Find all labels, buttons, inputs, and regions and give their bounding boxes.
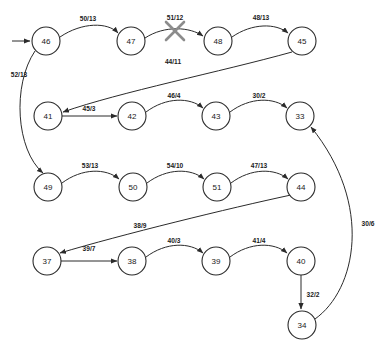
- node-label-39: 39: [212, 257, 221, 266]
- node-44[interactable]: 44: [287, 173, 315, 201]
- node-label-38: 38: [128, 257, 137, 266]
- edge-label-43-33: 30/2: [253, 92, 266, 99]
- edge-49-to-50: [62, 171, 119, 183]
- edge-label-49-50: 53/13: [82, 162, 99, 169]
- node-47[interactable]: 47: [117, 27, 145, 55]
- node-label-45: 45: [298, 37, 307, 46]
- node-label-47: 47: [127, 37, 136, 46]
- edge-50-to-51: [147, 171, 204, 183]
- node-label-34: 34: [298, 321, 307, 330]
- node-42[interactable]: 42: [118, 102, 146, 130]
- node-37[interactable]: 37: [33, 247, 61, 275]
- node-label-42: 42: [128, 112, 137, 121]
- edge-label-46-49: 52/13: [11, 71, 28, 78]
- edge-label-47-48: 51/12: [167, 14, 184, 21]
- node-label-46: 46: [42, 37, 51, 46]
- edge-38-to-39: [146, 245, 203, 257]
- edge-51-to-44: [231, 171, 288, 183]
- node-label-49: 49: [44, 183, 53, 192]
- node-40[interactable]: 40: [287, 247, 315, 275]
- edge-48-to-45: [232, 26, 288, 37]
- edge-label-44-37: 38/9: [134, 222, 147, 229]
- node-label-44: 44: [297, 183, 306, 192]
- node-label-41: 41: [44, 112, 53, 121]
- node-label-43: 43: [212, 112, 221, 121]
- node-33[interactable]: 33: [286, 102, 314, 130]
- node-label-51: 51: [213, 183, 222, 192]
- node-label-33: 33: [296, 112, 305, 121]
- node-38[interactable]: 38: [118, 247, 146, 275]
- node-51[interactable]: 51: [203, 173, 231, 201]
- node-label-37: 37: [43, 257, 52, 266]
- edge-label-38-39: 40/3: [168, 237, 181, 244]
- edge-label-45-41: 44/11: [165, 58, 181, 65]
- edge-46-to-47: [60, 25, 118, 37]
- node-41[interactable]: 41: [34, 102, 62, 130]
- edge-label-41-42: 45/3: [83, 105, 96, 112]
- node-39[interactable]: 39: [202, 247, 230, 275]
- node-46[interactable]: 46: [32, 27, 60, 55]
- node-45[interactable]: 45: [288, 27, 316, 55]
- edge-labels-layer: 50/1351/1248/1344/1152/1345/346/430/253/…: [11, 14, 375, 298]
- edge-42-to-43: [146, 100, 203, 112]
- edge-label-51-44: 47/13: [251, 162, 268, 169]
- edge-label-50-51: 54/10: [167, 162, 184, 169]
- nodes-layer: 4647484541424333495051443738394034: [32, 27, 316, 339]
- node-49[interactable]: 49: [34, 173, 62, 201]
- node-48[interactable]: 48: [204, 27, 232, 55]
- edge-label-37-38: 39/7: [83, 245, 96, 252]
- crossed-edge-marks-layer: [166, 22, 184, 40]
- node-label-40: 40: [297, 257, 306, 266]
- node-label-50: 50: [129, 183, 138, 192]
- node-50[interactable]: 50: [119, 173, 147, 201]
- edge-label-42-43: 46/4: [168, 92, 181, 99]
- node-34[interactable]: 34: [288, 311, 316, 339]
- edge-43-to-33: [230, 100, 287, 112]
- edge-label-40-34: 32/2: [307, 291, 320, 298]
- edge-label-48-45: 48/13: [253, 14, 270, 21]
- edge-label-34-33: 30/6: [362, 220, 375, 227]
- graph-diagram: 4647484541424333495051443738394034 50/13…: [0, 0, 390, 355]
- node-43[interactable]: 43: [202, 102, 230, 130]
- node-label-48: 48: [214, 37, 223, 46]
- edge-39-to-40: [230, 245, 287, 257]
- edge-label-46-47: 50/13: [80, 15, 97, 22]
- edge-label-39-40: 41/4: [253, 237, 266, 244]
- crossed-out-mark-47-48: [166, 22, 184, 40]
